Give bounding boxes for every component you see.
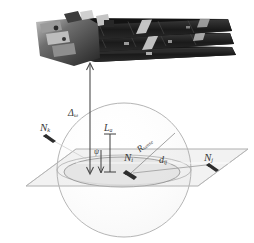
label-node-j-sub: j	[211, 156, 213, 163]
label-length-a-sub: a	[110, 127, 113, 133]
label-node-k: Nk	[40, 122, 50, 133]
label-height-psi-base: ψ	[94, 147, 99, 156]
label-node-i-sub: i	[131, 156, 133, 163]
label-length-a: La	[104, 123, 112, 134]
label-distance-ij: dij	[159, 155, 167, 166]
node-k-marker	[43, 134, 56, 143]
figure-canvas: Δω La ψ Rsense dij Nk Ni Nj	[0, 0, 254, 243]
label-delta-omega: Δω	[68, 108, 78, 119]
label-node-j: Nj	[204, 152, 213, 163]
label-delta-omega-sub: ω	[74, 112, 78, 118]
label-distance-ij-sub: ij	[164, 159, 167, 165]
label-node-i: Ni	[124, 152, 133, 163]
geometry-layer	[0, 0, 254, 243]
label-node-k-sub: k	[47, 126, 50, 133]
label-height-psi: ψ	[94, 148, 99, 156]
